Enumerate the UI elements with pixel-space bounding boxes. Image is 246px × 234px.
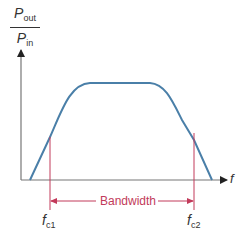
fraction-bar [10,27,40,28]
x-axis-label: f [230,171,234,186]
cutoff-label-fc1: fc1 [42,212,55,230]
y-numerator: P [14,5,23,21]
bandwidth-label: Bandwidth [98,194,158,208]
cutoff-label-fc2: fc2 [187,212,200,230]
y-denominator: P [17,30,26,46]
y-axis-label: Pout Pin [10,6,40,50]
response-curve [30,83,212,180]
y-denominator-sub: in [26,38,33,48]
y-numerator-sub: out [23,13,36,23]
